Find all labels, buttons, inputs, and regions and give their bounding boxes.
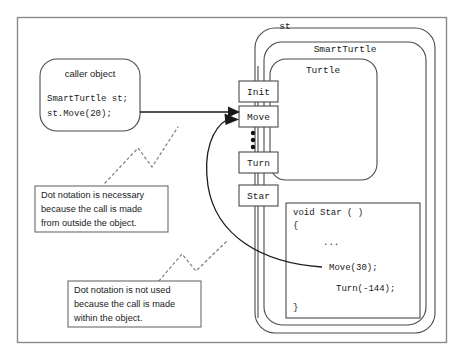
object-container-st-label: st <box>279 21 290 32</box>
method-box-turn-label: Turn <box>247 158 270 169</box>
method-box-move-label: Move <box>247 112 270 123</box>
callout-inside-line-1: Dot notation is not used <box>74 285 171 295</box>
callout-outside-line-2: because the call is made <box>41 204 142 214</box>
star-code-line-ellipsis: ... <box>323 238 339 248</box>
dashed-leader-outside <box>105 127 178 183</box>
star-code-line-close-brace: } <box>293 303 298 313</box>
caller-code-line-call: st.Move(20); <box>47 109 112 119</box>
diagram-root: st SmartTurtle Turtle Init Move Turn Sta… <box>0 0 463 360</box>
star-code-line-signature: void Star ( ) <box>293 208 363 218</box>
callout-outside-line-3: from outside the object. <box>41 218 137 228</box>
class-container-smartturtle-label: SmartTurtle <box>314 44 377 55</box>
star-code-line-turn: Turn(-144); <box>336 284 395 294</box>
callout-outside-line-1: Dot notation is necessary <box>41 190 145 200</box>
star-code-line-open-brace: { <box>293 221 298 231</box>
callout-inside-line-2: because the call is made <box>74 299 175 309</box>
callout-inside-line-3: within the object. <box>73 313 142 323</box>
class-container-turtle-label: Turtle <box>306 65 341 76</box>
caller-object-heading: caller object <box>65 68 116 79</box>
class-container-turtle <box>270 59 377 180</box>
vertical-ellipsis-icon <box>251 131 255 149</box>
figure-canvas: st SmartTurtle Turtle Init Move Turn Sta… <box>0 0 463 360</box>
method-box-init-label: Init <box>247 87 270 98</box>
star-code-line-move: Move(30); <box>329 263 378 273</box>
method-box-star-label: Star <box>247 191 270 202</box>
caller-code-line-declaration: SmartTurtle st; <box>47 94 128 104</box>
star-code-block <box>286 203 420 318</box>
